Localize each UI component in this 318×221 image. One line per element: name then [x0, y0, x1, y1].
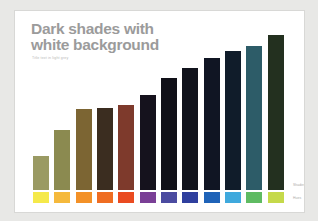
- bar[interactable]: [161, 78, 177, 190]
- bar[interactable]: [225, 51, 241, 191]
- hue-swatch[interactable]: [225, 192, 241, 203]
- bar[interactable]: [97, 108, 113, 190]
- hue-swatch[interactable]: [161, 192, 177, 203]
- bar[interactable]: [33, 156, 49, 190]
- bar-slot: [182, 35, 198, 190]
- bar-slot: [246, 35, 262, 190]
- bar-chart-plot-area: [33, 35, 289, 190]
- bar[interactable]: [182, 68, 198, 190]
- bar-slot: [204, 35, 220, 190]
- bar-slot: [54, 35, 70, 190]
- bar[interactable]: [140, 95, 156, 190]
- hue-swatch[interactable]: [268, 192, 284, 203]
- bar[interactable]: [118, 105, 134, 190]
- hue-swatch[interactable]: [182, 192, 198, 203]
- hue-swatch[interactable]: [204, 192, 220, 203]
- bar-slot: [225, 35, 241, 190]
- bar-slot: [118, 35, 134, 190]
- bar[interactable]: [268, 35, 284, 190]
- slide-frame: Dark shades with white background Title …: [14, 10, 305, 213]
- bar[interactable]: [246, 46, 262, 190]
- bar[interactable]: [54, 130, 70, 190]
- hue-swatch[interactable]: [33, 192, 49, 203]
- series-label-hues: Hues: [293, 196, 301, 200]
- hue-swatch[interactable]: [76, 192, 92, 203]
- bar-slot: [268, 35, 284, 190]
- bar[interactable]: [204, 58, 220, 190]
- bar[interactable]: [76, 109, 92, 190]
- bar-slot: [33, 35, 49, 190]
- bar-slot: [97, 35, 113, 190]
- bar-slot: [76, 35, 92, 190]
- hue-swatch[interactable]: [118, 192, 134, 203]
- series-label-shades: Shades: [293, 183, 305, 187]
- hue-swatch[interactable]: [97, 192, 113, 203]
- bar-slot: [140, 35, 156, 190]
- hue-swatch[interactable]: [54, 192, 70, 203]
- bar-slot: [161, 35, 177, 190]
- hue-swatch-row: [33, 192, 289, 203]
- hue-swatch[interactable]: [246, 192, 262, 203]
- hue-swatch[interactable]: [140, 192, 156, 203]
